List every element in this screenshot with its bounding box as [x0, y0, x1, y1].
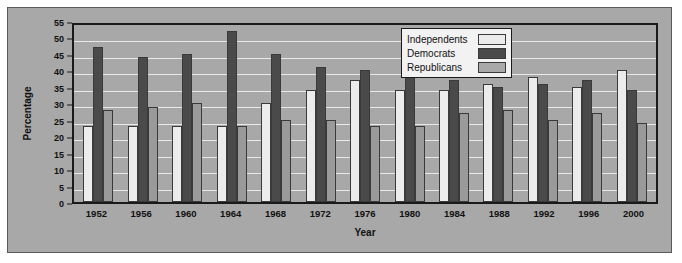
- bar-democrats-2000: [627, 90, 637, 202]
- bar-republicans-1988: [503, 110, 513, 202]
- bar-democrats-1976: [360, 70, 370, 202]
- y-tick-label: 25: [54, 117, 64, 126]
- y-tick-label: 35: [54, 84, 64, 93]
- bar-republicans-2000: [637, 123, 647, 202]
- bar-groups: [74, 25, 656, 202]
- bar-independents-1984: [439, 90, 449, 202]
- bar-independents-1980: [395, 90, 405, 202]
- legend-item: Independents: [407, 32, 506, 46]
- bar-democrats-1964: [227, 31, 237, 202]
- bar-republicans-1956: [148, 107, 158, 202]
- legend-label: Republicans: [407, 62, 462, 73]
- x-axis-labels: 1952195619601964196819721976198019841988…: [72, 208, 658, 224]
- bar-independents-1968: [261, 103, 271, 202]
- bar-republicans-1992: [548, 120, 558, 202]
- bar-democrats-1980: [405, 67, 415, 202]
- bar-independents-1996: [572, 87, 582, 202]
- bar-independents-1952: [83, 126, 93, 202]
- y-tick-label: 55: [54, 19, 64, 28]
- legend-swatch: [478, 34, 506, 45]
- legend-label: Democrats: [407, 48, 455, 59]
- bar-group: [209, 25, 253, 202]
- bar-group: [343, 25, 387, 202]
- x-tick-label: 1976: [343, 208, 388, 224]
- x-tick-label: 1968: [253, 208, 298, 224]
- bar-group: [120, 25, 164, 202]
- bar-republicans-1964: [237, 126, 247, 202]
- y-tick-label: 10: [54, 167, 64, 176]
- bar-independents-1964: [217, 126, 227, 202]
- x-tick-label: 1952: [74, 208, 119, 224]
- x-tick-label: 1972: [298, 208, 343, 224]
- y-tick-label: 40: [54, 68, 64, 77]
- bar-democrats-1960: [182, 54, 192, 202]
- bar-group: [165, 25, 209, 202]
- bar-democrats-1984: [449, 80, 459, 202]
- plot-area: [72, 23, 658, 204]
- bar-group: [254, 25, 298, 202]
- x-tick-label: 1988: [477, 208, 522, 224]
- chart-legend: IndependentsDemocratsRepublicans: [401, 28, 512, 78]
- bar-group: [76, 25, 120, 202]
- bar-independents-1972: [306, 90, 316, 202]
- x-tick-label: 1964: [208, 208, 253, 224]
- x-tick-label: 1960: [164, 208, 209, 224]
- y-tick-label: 15: [54, 150, 64, 159]
- legend-label: Independents: [407, 34, 468, 45]
- y-tick-label: 20: [54, 134, 64, 143]
- y-axis-ticks: 0510152025303540455055: [8, 23, 72, 204]
- bar-group: [610, 25, 654, 202]
- x-axis-title: Year: [72, 227, 658, 238]
- x-tick-label: 1956: [119, 208, 164, 224]
- bar-group: [521, 25, 565, 202]
- y-tick-label: 50: [54, 35, 64, 44]
- bar-republicans-1968: [281, 120, 291, 202]
- x-tick-label: 1980: [387, 208, 432, 224]
- bar-democrats-1956: [138, 57, 148, 202]
- legend-swatch: [478, 62, 506, 73]
- bar-independents-1988: [483, 84, 493, 202]
- x-tick-label: 1992: [522, 208, 567, 224]
- bar-republicans-1980: [415, 126, 425, 202]
- bar-republicans-1952: [103, 110, 113, 202]
- y-tick-label: 45: [54, 51, 64, 60]
- y-tick-label: 5: [59, 183, 64, 192]
- y-tick-label: 0: [59, 200, 64, 209]
- bar-democrats-1992: [538, 84, 548, 202]
- x-tick-label: 1984: [432, 208, 477, 224]
- bar-democrats-1968: [271, 54, 281, 202]
- x-tick-label: 1996: [566, 208, 611, 224]
- bar-independents-2000: [617, 70, 627, 202]
- bar-republicans-1984: [459, 113, 469, 202]
- bar-group: [565, 25, 609, 202]
- y-tick-label: 30: [54, 101, 64, 110]
- bar-independents-1956: [128, 126, 138, 202]
- x-tick-label: 2000: [611, 208, 656, 224]
- bar-independents-1960: [172, 126, 182, 202]
- legend-item: Democrats: [407, 46, 506, 60]
- bar-democrats-1972: [316, 67, 326, 202]
- bar-democrats-1996: [582, 80, 592, 202]
- legend-item: Republicans: [407, 60, 506, 74]
- bar-independents-1992: [528, 77, 538, 202]
- bar-independents-1976: [350, 80, 360, 202]
- bar-democrats-1988: [493, 87, 503, 202]
- bar-republicans-1976: [370, 126, 380, 202]
- bar-republicans-1972: [326, 120, 336, 202]
- bar-democrats-1952: [93, 47, 103, 202]
- bar-group: [298, 25, 342, 202]
- bar-republicans-1996: [592, 113, 602, 202]
- legend-swatch: [478, 48, 506, 59]
- bar-republicans-1960: [192, 103, 202, 202]
- chart-figure: Percentage 0510152025303540455055 195219…: [7, 7, 672, 253]
